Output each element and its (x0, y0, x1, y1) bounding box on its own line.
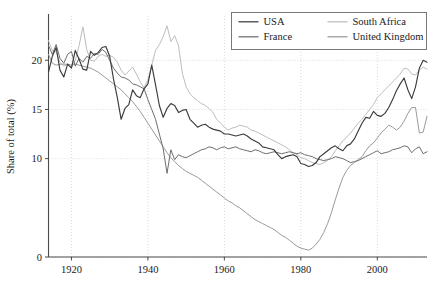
legend-label-usa: USA (264, 16, 285, 27)
x-tick-label: 1940 (137, 264, 158, 275)
y-axis-label: Share of total (%) (5, 99, 17, 174)
legend-label-south-africa: South Africa (353, 16, 407, 27)
x-tick-label: 1960 (214, 264, 235, 275)
legend-label-france: France (264, 31, 293, 42)
y-tick-label: 10 (32, 153, 43, 164)
x-tick-label: 1980 (290, 264, 311, 275)
legend-label-united-kingdom: United Kingdom (353, 31, 424, 42)
data-series (49, 26, 428, 250)
chart-legend: USASouth AfricaFranceUnited Kingdom (232, 13, 427, 50)
y-axis-title: Share of total (%) (5, 99, 17, 174)
tick-labels: 010152019201940196019802000 (32, 55, 388, 275)
x-tick-label: 1920 (61, 264, 82, 275)
line-chart: 010152019201940196019802000 Share of tot… (0, 0, 434, 288)
y-tick-label: 20 (32, 55, 43, 66)
x-tick-label: 2000 (367, 264, 388, 275)
y-tick-label: 0 (37, 252, 42, 263)
chart-figure: 010152019201940196019802000 Share of tot… (0, 0, 434, 288)
y-tick-label: 15 (32, 104, 43, 115)
series-line-united-kingdom (49, 54, 428, 250)
series-line-usa (49, 46, 428, 166)
